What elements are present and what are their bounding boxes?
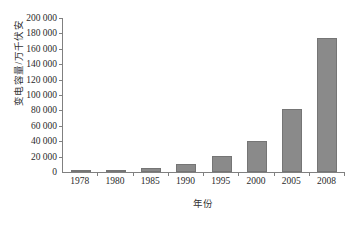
x-axis-tick-label: 1995	[203, 176, 238, 186]
x-axis-tick-label: 1978	[62, 176, 97, 186]
bar-slot	[169, 18, 204, 172]
bar-chart-figure: 变电容量/万千伏安 200 000180 000160 000140 00012…	[0, 0, 352, 225]
bar	[282, 109, 302, 172]
bar	[247, 141, 267, 172]
x-axis-tick-label: 2008	[309, 176, 344, 186]
bar-slot	[98, 18, 133, 172]
bar	[212, 156, 232, 172]
y-axis-tick-label: 140 000	[26, 59, 63, 69]
bar-slot	[275, 18, 310, 172]
bar-slot	[310, 18, 345, 172]
y-axis-tick-label: 200 000	[26, 13, 63, 23]
y-axis-tick-label: 160 000	[26, 44, 63, 54]
bar	[106, 170, 126, 172]
x-axis-tick-label: 1980	[97, 176, 132, 186]
bar-slot	[204, 18, 239, 172]
bar	[176, 164, 196, 172]
bar	[71, 170, 91, 172]
bar-slot	[63, 18, 98, 172]
bar-slot	[134, 18, 169, 172]
x-axis-tick-label: 1985	[133, 176, 168, 186]
bar	[141, 168, 161, 172]
y-axis-title: 变电容量/万千伏安	[11, 0, 25, 133]
plot-area: 200 000180 000160 000140 000120 000100 0…	[62, 18, 345, 173]
x-axis-tick-label: 2005	[274, 176, 309, 186]
y-axis-tick-label: 180 000	[26, 28, 63, 38]
bar	[317, 38, 337, 172]
y-axis-tick-label: 120 000	[26, 75, 63, 85]
x-axis-tick-label: 1990	[168, 176, 203, 186]
x-axis-tick-labels: 19781980198519901995200020052008	[62, 176, 344, 186]
x-axis-title: 年份	[62, 196, 344, 210]
y-axis-tick-label: 100 000	[26, 90, 63, 100]
x-axis-tick-mark	[344, 172, 345, 176]
bar-slot	[239, 18, 274, 172]
x-axis-tick-label: 2000	[238, 176, 273, 186]
bar-series	[63, 18, 345, 172]
